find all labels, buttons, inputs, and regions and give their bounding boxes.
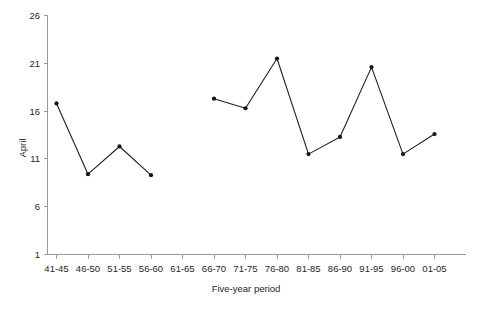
data-point-56-60[interactable] [149,173,153,177]
y-axis-ticks [44,16,48,255]
x-axis-title: Five-year period [212,283,281,294]
x-tick-label-81-85: 81-85 [296,263,320,274]
chart-container: 26 21 16 11 6 1 April [0,0,484,310]
x-tick-label-91-95: 91-95 [359,263,383,274]
x-axis-tick-labels: 41-45 46-50 51-55 56-60 61-65 66-70 71-7… [44,263,446,274]
y-tick-label-11: 11 [30,153,40,164]
data-point-96-00[interactable] [401,152,405,156]
series-line-segment-1 [214,59,435,155]
data-point-46-50[interactable] [86,172,90,176]
x-tick-label-96-00: 96-00 [391,263,415,274]
y-tick-label-21: 21 [29,58,40,69]
data-point-66-70[interactable] [212,97,216,101]
x-tick-label-46-50: 46-50 [76,263,100,274]
x-tick-label-41-45: 41-45 [44,263,68,274]
x-tick-label-76-80: 76-80 [265,263,289,274]
x-tick-label-86-90: 86-90 [328,263,352,274]
x-axis: 41-45 46-50 51-55 56-60 61-65 66-70 71-7… [44,255,466,295]
series-line-segment-0 [57,103,152,175]
x-tick-label-61-65: 61-65 [170,263,194,274]
data-point-81-85[interactable] [306,152,310,156]
x-tick-label-01-05: 01-05 [422,263,446,274]
y-axis: 26 21 16 11 6 1 April [17,10,48,260]
y-tick-label-1: 1 [35,249,40,260]
data-point-91-95[interactable] [369,65,373,69]
y-axis-tick-labels: 26 21 16 11 6 1 [29,10,40,260]
data-series-april [54,56,436,177]
x-tick-label-51-55: 51-55 [107,263,131,274]
x-tick-label-56-60: 56-60 [139,263,163,274]
data-point-51-55[interactable] [117,144,121,148]
y-tick-label-26: 26 [29,10,40,21]
data-point-76-80[interactable] [275,56,279,60]
y-axis-title: April [17,138,28,157]
data-point-71-75[interactable] [243,106,247,110]
y-tick-label-6: 6 [35,201,40,212]
x-tick-label-71-75: 71-75 [233,263,257,274]
data-point-41-45[interactable] [54,101,58,105]
line-chart: 26 21 16 11 6 1 April [0,0,484,310]
x-axis-ticks [57,255,435,259]
data-point-01-05[interactable] [432,132,436,136]
x-tick-label-66-70: 66-70 [202,263,226,274]
y-tick-label-16: 16 [29,106,40,117]
data-point-86-90[interactable] [338,135,342,139]
